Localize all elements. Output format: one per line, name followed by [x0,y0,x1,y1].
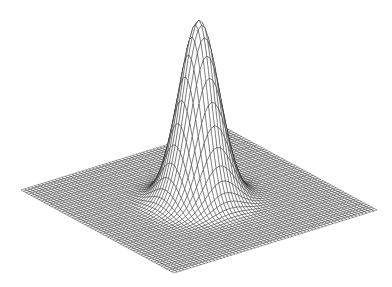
surface-plot [0,0,392,287]
surface-mesh [21,20,377,273]
